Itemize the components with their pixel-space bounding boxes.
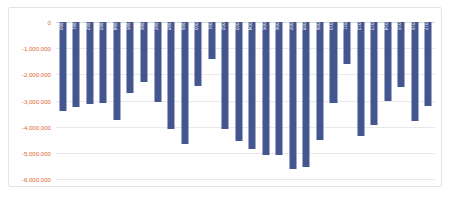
y-axis-tick-label: -3,000,000 — [22, 97, 51, 104]
bar[interactable] — [357, 22, 364, 136]
bar[interactable] — [384, 22, 391, 101]
bar[interactable] — [181, 22, 188, 144]
bar-slot: 1990 — [56, 22, 70, 179]
bar[interactable] — [73, 22, 80, 107]
bar-slot: 2014 — [381, 22, 395, 179]
bar-series: 1990199119921993199419951996199719981999… — [56, 22, 435, 179]
bar[interactable] — [276, 22, 283, 155]
bar[interactable] — [411, 22, 418, 121]
y-axis-tick-label: -4,000,000 — [22, 123, 51, 130]
bar[interactable] — [154, 22, 161, 102]
bar-slot: 2004 — [246, 22, 260, 179]
bar-slot: 2002 — [218, 22, 232, 179]
bar-slot: 2007 — [286, 22, 300, 179]
bar[interactable] — [86, 22, 93, 104]
bar[interactable] — [100, 22, 107, 103]
bar-slot: 2016 — [408, 22, 422, 179]
bar-slot: 2008 — [300, 22, 314, 179]
bar-slot: 2010 — [327, 22, 341, 179]
bar[interactable] — [425, 22, 432, 106]
bar-slot: 2009 — [313, 22, 327, 179]
bar[interactable] — [59, 22, 66, 111]
bar-slot: 2013 — [367, 22, 381, 179]
bar-slot: 2001 — [205, 22, 219, 179]
bar[interactable] — [303, 22, 310, 167]
bar-slot: 1993 — [97, 22, 111, 179]
bar-slot: 1994 — [110, 22, 124, 179]
bar[interactable] — [208, 22, 215, 59]
y-axis-tick-label: -1,000,000 — [22, 45, 51, 52]
bar-slot: 2011 — [340, 22, 354, 179]
gridline — [56, 179, 435, 180]
bar-slot: 2000 — [191, 22, 205, 179]
bar[interactable] — [316, 22, 323, 140]
bar[interactable] — [222, 22, 229, 129]
bar-slot: 1999 — [178, 22, 192, 179]
bar[interactable] — [249, 22, 256, 149]
bar[interactable] — [398, 22, 405, 87]
bar-slot: 1997 — [151, 22, 165, 179]
bar[interactable] — [195, 22, 202, 86]
bar-slot: 1991 — [70, 22, 84, 179]
bar[interactable] — [371, 22, 378, 125]
bar[interactable] — [168, 22, 175, 129]
bar[interactable] — [344, 22, 351, 64]
bar-slot: 1992 — [83, 22, 97, 179]
bar-slot: 1998 — [164, 22, 178, 179]
bar-slot: 2006 — [273, 22, 287, 179]
bar-slot: 2003 — [232, 22, 246, 179]
bar[interactable] — [262, 22, 269, 155]
bar-slot: 2012 — [354, 22, 368, 179]
y-axis-tick-label: 0 — [48, 19, 51, 26]
bar[interactable] — [235, 22, 242, 141]
y-axis: 0-1,000,000-2,000,000-3,000,000-4,000,00… — [9, 22, 54, 182]
bar[interactable] — [113, 22, 120, 120]
plot-area: 1990199119921993199419951996199719981999… — [56, 22, 435, 179]
y-axis-tick-label: -6,000,000 — [22, 176, 51, 183]
bar-slot: 1995 — [124, 22, 138, 179]
bar[interactable] — [140, 22, 147, 82]
bar-slot: 2017 — [421, 22, 435, 179]
bar[interactable] — [127, 22, 134, 93]
chart-frame: 0-1,000,000-2,000,000-3,000,000-4,000,00… — [8, 7, 442, 187]
bar-slot: 1996 — [137, 22, 151, 179]
bar[interactable] — [330, 22, 337, 103]
bar-slot: 2015 — [394, 22, 408, 179]
y-axis-tick-label: -5,000,000 — [22, 149, 51, 156]
bar[interactable] — [289, 22, 296, 169]
y-axis-tick-label: -2,000,000 — [22, 71, 51, 78]
bar-slot: 2005 — [259, 22, 273, 179]
